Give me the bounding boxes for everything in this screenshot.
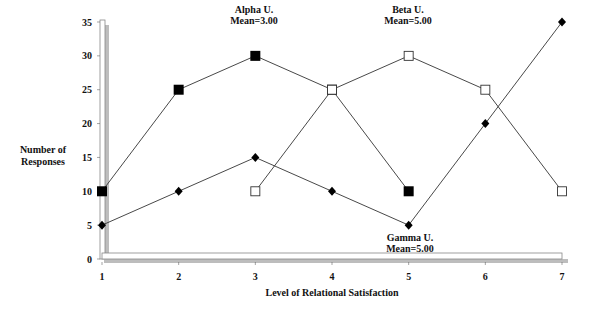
x-tick-label: 1	[100, 271, 105, 282]
series-annotation: Mean=3.00	[230, 15, 278, 26]
series-annotation: Mean=5.00	[386, 243, 434, 254]
x-tick-label: 4	[330, 271, 335, 282]
series-markers	[97, 18, 567, 230]
y-tick-label: 30	[82, 50, 92, 61]
diamond-marker	[328, 187, 336, 196]
y-tick-label: 15	[82, 152, 92, 163]
filled-square-marker	[97, 186, 107, 196]
y-tick-label: 35	[82, 17, 92, 28]
x-tick-label: 5	[406, 271, 411, 282]
line-chart: 05101520253035 1234567 Alpha U.Mean=3.00…	[0, 0, 590, 309]
series-annotation: Mean=5.00	[384, 15, 432, 26]
diamond-marker	[251, 153, 259, 162]
filled-square-marker	[250, 51, 260, 61]
x-axis-bar	[102, 253, 562, 259]
y-axis-label: Number of	[20, 144, 67, 155]
open-square-marker	[251, 187, 260, 196]
y-tick-label: 20	[82, 118, 92, 129]
open-square-marker	[328, 85, 337, 94]
x-tick-label: 7	[560, 271, 565, 282]
y-tick-label: 0	[87, 254, 92, 265]
open-square-marker	[558, 187, 567, 196]
y-axis-ticks: 05101520253035	[82, 17, 100, 265]
diamond-marker	[175, 187, 183, 196]
series-annotations: Alpha U.Mean=3.00Beta U.Mean=5.00Gamma U…	[230, 4, 434, 254]
y-axis-shadow	[105, 25, 109, 262]
open-square-marker	[404, 51, 413, 60]
filled-square-marker	[404, 186, 414, 196]
series-annotation: Alpha U.	[235, 4, 274, 15]
y-tick-label: 25	[82, 84, 92, 95]
x-tick-label: 2	[176, 271, 181, 282]
x-axis-ticks: 1234567	[100, 262, 565, 282]
filled-square-marker	[174, 85, 184, 95]
y-tick-label: 5	[87, 220, 92, 231]
y-axis-label: Responses	[21, 156, 65, 167]
x-axis-label: Level of Relational Satisfaction	[265, 287, 398, 298]
y-tick-label: 10	[82, 186, 92, 197]
x-tick-label: 6	[483, 271, 488, 282]
open-square-marker	[481, 85, 490, 94]
series-annotation: Gamma U.	[387, 232, 434, 243]
x-axis-shadow	[104, 259, 568, 263]
x-tick-label: 3	[253, 271, 258, 282]
series-annotation: Beta U.	[392, 4, 424, 15]
